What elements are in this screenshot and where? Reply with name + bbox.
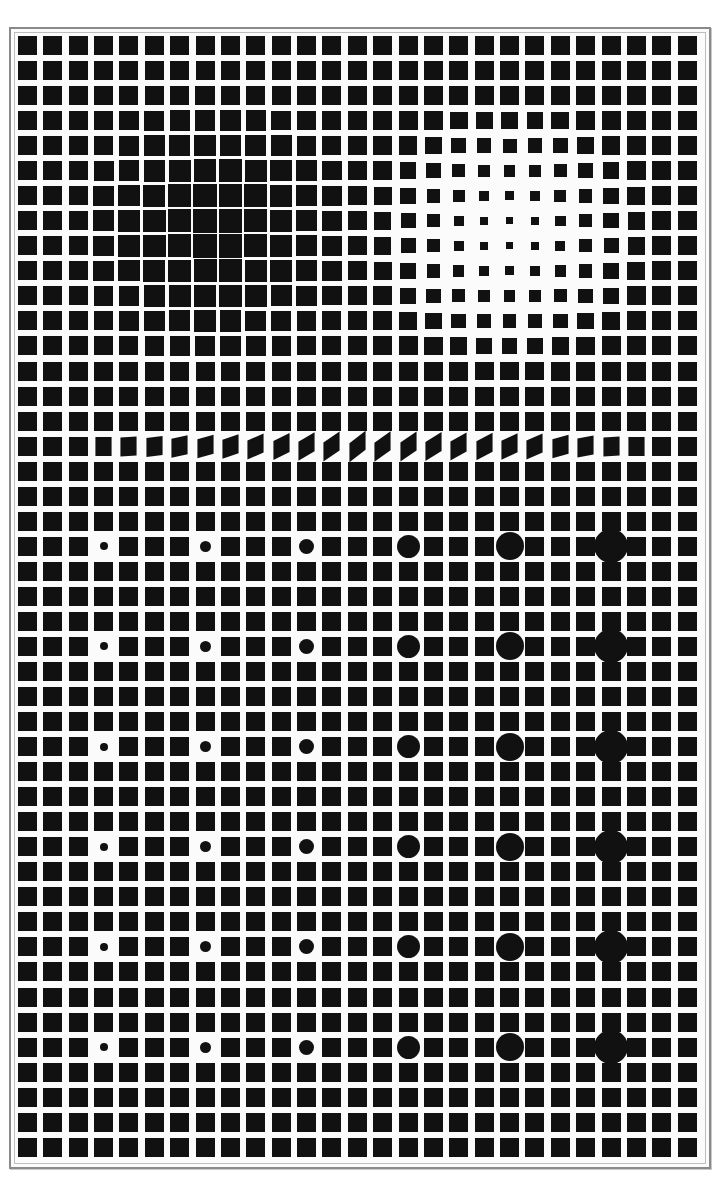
- grid-square: [196, 787, 215, 806]
- grid-square: [221, 1113, 240, 1132]
- grid-square: [272, 1038, 291, 1057]
- grid-square: [94, 336, 113, 355]
- grid-square: [500, 487, 519, 506]
- grid-square: [170, 687, 189, 706]
- grid-square: [525, 387, 544, 406]
- grid-square: [297, 612, 316, 631]
- grid-square: [399, 36, 418, 55]
- grid-square: [424, 387, 443, 406]
- grid-square: [244, 184, 267, 207]
- grid-square: [373, 336, 392, 355]
- grid-square: [272, 937, 291, 956]
- grid-square: [475, 612, 494, 631]
- grid-square: [145, 512, 164, 531]
- grid-square: [322, 161, 341, 180]
- grid-square: [427, 239, 440, 252]
- grid-square: [272, 537, 291, 556]
- grid-square: [576, 1063, 595, 1082]
- grid-square: [196, 362, 215, 381]
- grid-square: [348, 1088, 367, 1107]
- grid-square: [373, 587, 392, 606]
- grid-square: [94, 161, 114, 181]
- grid-square: [170, 61, 189, 80]
- grid-square: [168, 184, 191, 207]
- grid-square: [221, 1063, 240, 1082]
- grid-square: [272, 737, 291, 756]
- grid-square: [18, 111, 37, 130]
- grid-square: [373, 962, 392, 981]
- grid-square: [246, 462, 265, 481]
- grid-square: [652, 1063, 671, 1082]
- grid-square: [475, 762, 494, 781]
- grid-square: [602, 61, 621, 80]
- grid-square: [195, 336, 215, 356]
- grid-square: [18, 912, 37, 931]
- grid-square: [373, 637, 392, 656]
- grid-square: [373, 687, 392, 706]
- grid-square: [18, 787, 37, 806]
- grid-square: [69, 1113, 88, 1132]
- grid-square: [373, 1013, 392, 1032]
- grid-square: [18, 712, 37, 731]
- grid-square: [551, 112, 569, 130]
- grid-square: [678, 887, 697, 906]
- grid-square: [504, 290, 515, 301]
- grid-square: [525, 737, 544, 756]
- grid-square: [652, 286, 671, 305]
- grid-square: [119, 737, 138, 756]
- grid-square: [272, 36, 291, 55]
- grid-square: [18, 86, 37, 105]
- grid-square: [196, 812, 215, 831]
- grid-square: [576, 387, 595, 406]
- circle-dot: [594, 1030, 628, 1064]
- grid-square: [449, 862, 468, 881]
- grid-square: [500, 887, 519, 906]
- grid-square: [678, 812, 697, 831]
- grid-square: [119, 988, 138, 1007]
- grid-square: [449, 937, 468, 956]
- grid-square: [272, 837, 291, 856]
- grid-square: [551, 912, 570, 931]
- circle-dot: [200, 841, 211, 852]
- grid-square: [500, 1138, 519, 1157]
- grid-square: [322, 36, 341, 55]
- grid-square: [297, 787, 316, 806]
- grid-square: [627, 762, 646, 781]
- grid-square: [652, 161, 671, 180]
- grid-square: [221, 487, 240, 506]
- grid-square: [170, 1088, 189, 1107]
- grid-square: [145, 1013, 164, 1032]
- grid-square: [145, 988, 164, 1007]
- grid-square: [322, 537, 341, 556]
- grid-square: [272, 487, 291, 506]
- grid-square: [18, 61, 37, 80]
- grid-square: [678, 387, 697, 406]
- grid-square: [503, 314, 517, 328]
- grid-square: [652, 862, 671, 881]
- grid-square: [43, 136, 62, 155]
- grid-square: [678, 1088, 697, 1107]
- grid-square: [18, 537, 37, 556]
- grid-square: [373, 912, 392, 931]
- grid-square: [322, 1038, 341, 1057]
- grid-square: [193, 184, 216, 207]
- grid-square: [196, 762, 215, 781]
- grid-square: [449, 1088, 468, 1107]
- grid-square: [194, 159, 217, 182]
- grid-square: [322, 937, 341, 956]
- grid-square: [322, 1088, 341, 1107]
- grid-square: [18, 1063, 37, 1082]
- grid-square: [399, 762, 418, 781]
- grid-square: [602, 587, 621, 606]
- grid-square: [348, 161, 367, 180]
- grid-square: [424, 1113, 443, 1132]
- grid-square: [69, 336, 88, 355]
- grid-square: [94, 512, 113, 531]
- grid-square: [69, 887, 88, 906]
- grid-square: [480, 242, 488, 250]
- grid-square: [296, 235, 317, 256]
- grid-square: [69, 512, 88, 531]
- grid-square: [193, 209, 217, 233]
- grid-square: [627, 387, 646, 406]
- grid-square: [270, 185, 292, 207]
